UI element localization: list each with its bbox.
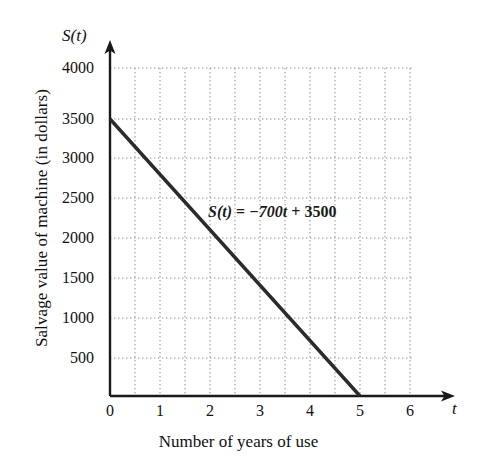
x-tick-label-4: 4 xyxy=(298,403,322,419)
y-tick-label-3500: 3500 xyxy=(36,111,94,127)
equation-function: S(t) xyxy=(208,203,232,220)
x-tick-label-6: 6 xyxy=(398,403,422,419)
x-axis-line xyxy=(110,391,455,402)
equation-plus: + xyxy=(291,203,300,220)
x-tick-label-2: 2 xyxy=(198,403,222,419)
y-tick-label-2000: 2000 xyxy=(36,230,94,246)
x-axis-title: Number of years of use xyxy=(0,432,477,452)
x-tick-label-3: 3 xyxy=(248,403,272,419)
y-tick-label-4000: 4000 xyxy=(36,60,94,76)
y-tick-label-3000: 3000 xyxy=(36,150,94,166)
x-tick-label-1: 1 xyxy=(148,403,172,419)
x-tick-label-5: 5 xyxy=(348,403,372,419)
y-tick-label-1000: 1000 xyxy=(36,310,94,326)
y-tick-label-1500: 1500 xyxy=(36,270,94,286)
x-tick-label-0: 0 xyxy=(98,403,122,419)
salvage-value-chart-figure: Salvage value of machine (in dollars) S(… xyxy=(0,0,477,470)
equation-annotation: S(t) = −700t + 3500 xyxy=(208,203,336,221)
y-tick-label-500: 500 xyxy=(36,350,94,366)
equation-slope-term: −700t xyxy=(249,203,287,220)
equation-intercept-term: 3500 xyxy=(304,203,336,220)
y-axis-line xyxy=(105,40,116,396)
y-tick-label-2500: 2500 xyxy=(36,190,94,206)
equation-equals: = xyxy=(236,203,245,220)
vertical-gridlines xyxy=(135,68,410,396)
